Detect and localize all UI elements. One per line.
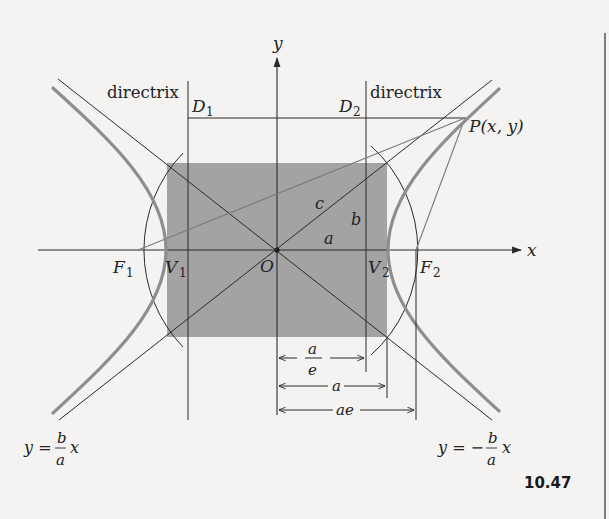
hyperbola-figure: y x O directrix directrix D 1 D 2 P(x, y… [0, 0, 609, 519]
svg-text:D: D [338, 96, 353, 116]
svg-text:b: b [488, 429, 498, 447]
segment-b-label: b [351, 210, 361, 229]
svg-text:1: 1 [206, 105, 214, 119]
svg-text:F: F [112, 257, 126, 277]
dimension-a-label: a [332, 377, 341, 395]
segment-a-label: a [324, 229, 334, 248]
dimension-ae-label: ae [336, 401, 354, 419]
asymptote-left-equation: y = b a x [23, 429, 79, 469]
svg-text:e: e [308, 361, 317, 379]
origin-label: O [260, 256, 274, 276]
d2-label: D 2 [338, 96, 361, 119]
svg-text:1: 1 [126, 266, 134, 280]
svg-text:V: V [165, 257, 179, 277]
svg-text:y = −: y = − [437, 438, 484, 457]
svg-text:2: 2 [382, 266, 390, 280]
svg-text:1: 1 [179, 266, 187, 280]
svg-text:x: x [70, 438, 79, 457]
d1-label: D 1 [191, 96, 214, 119]
svg-text:a: a [56, 451, 65, 469]
f2-label: F 2 [419, 257, 441, 280]
directrix-right-label: directrix [370, 83, 443, 102]
svg-text:y =: y = [23, 438, 52, 457]
svg-text:2: 2 [353, 105, 361, 119]
directrix-left-label: directrix [107, 83, 180, 102]
dimension-a-over-e-label: a e [305, 340, 322, 379]
svg-text:a: a [487, 451, 496, 469]
segment-f2-p [416, 118, 465, 250]
svg-text:b: b [57, 429, 67, 447]
f1-label: F 1 [112, 257, 134, 280]
svg-text:F: F [419, 257, 433, 277]
svg-text:2: 2 [433, 266, 441, 280]
svg-text:x: x [502, 438, 511, 457]
svg-text:D: D [191, 96, 206, 116]
segment-c-label: c [315, 194, 324, 213]
asymptote-right-equation: y = − b a x [437, 429, 511, 469]
svg-text:a: a [308, 340, 317, 358]
x-axis-label: x [527, 240, 537, 260]
figure-number: 10.47 [524, 474, 571, 492]
point-p-label: P(x, y) [468, 116, 524, 136]
y-axis-label: y [272, 33, 283, 53]
svg-text:V: V [368, 257, 382, 277]
